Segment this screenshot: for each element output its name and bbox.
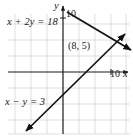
x-axis-tick-label-10: 10 (110, 68, 120, 79)
equation-label-1: x + 2y = 18 (7, 16, 58, 27)
x-axis-label: x (123, 68, 128, 79)
y-axis-label: y (54, 0, 59, 11)
coordinate-graph-figure: x + 2y = 18 x − y = 3 (8, 5) y x 10 10 (0, 0, 133, 136)
equation-label-2: x − y = 3 (5, 96, 45, 107)
y-axis-tick-label-10: 10 (66, 8, 76, 19)
intersection-point-label: (8, 5) (68, 40, 90, 51)
